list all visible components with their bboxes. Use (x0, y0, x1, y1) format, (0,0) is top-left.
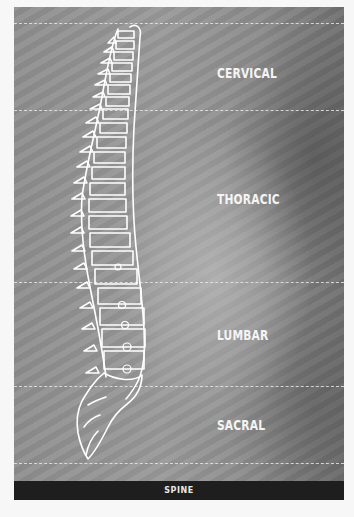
figure-caption: SPINE (164, 486, 193, 495)
region-label-cervical: CERVICAL (217, 65, 277, 81)
figure-caption-bar: SPINE (14, 481, 344, 500)
region-label-lumbar: LUMBAR (217, 327, 268, 343)
region-label-thoracic: THORACIC (217, 191, 280, 207)
spine-outline-icon (14, 7, 344, 487)
region-label-sacral: SACRAL (217, 417, 265, 433)
spine-diagram-panel: CERVICAL THORACIC LUMBAR SACRAL SPINE (14, 7, 344, 500)
